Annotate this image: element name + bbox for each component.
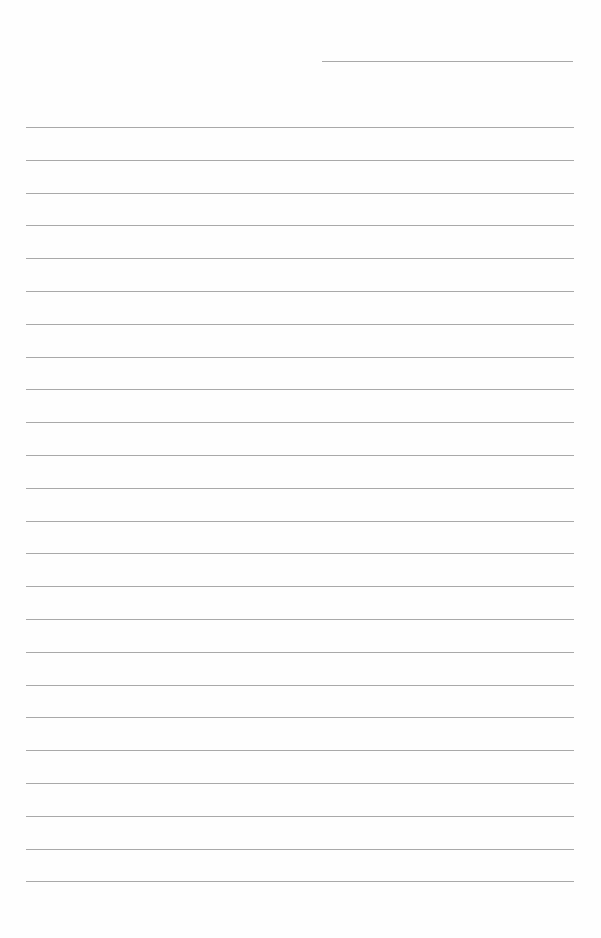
header-line [322,61,573,62]
ruled-line [26,619,574,620]
ruled-line [26,849,574,850]
ruled-line [26,160,574,161]
ruled-line [26,127,574,128]
ruled-line [26,717,574,718]
ruled-line [26,225,574,226]
ruled-line [26,291,574,292]
ruled-line [26,521,574,522]
ruled-line [26,357,574,358]
ruled-line [26,783,574,784]
ruled-line [26,881,574,882]
ruled-line [26,652,574,653]
ruled-line [26,488,574,489]
ruled-line [26,553,574,554]
ruled-line [26,455,574,456]
ruled-line [26,422,574,423]
ruled-line [26,685,574,686]
ruled-line [26,816,574,817]
ruled-line [26,750,574,751]
ruled-line [26,324,574,325]
ruled-line [26,193,574,194]
ruled-line [26,586,574,587]
ruled-line [26,258,574,259]
lined-paper-page [0,0,601,938]
ruled-line [26,389,574,390]
